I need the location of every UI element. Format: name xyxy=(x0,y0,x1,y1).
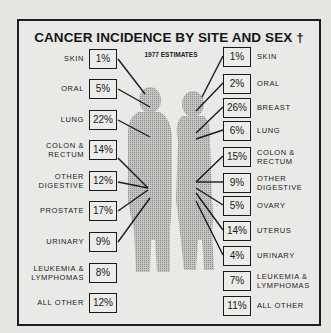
female-pct-colon: 15% xyxy=(223,147,251,167)
female-label-other-digestive: OTHER DIGESTIVE xyxy=(257,175,327,192)
male-label-lung: LUNG xyxy=(4,116,84,125)
male-label-skin: SKIN xyxy=(4,55,84,64)
female-label-leukemia: LEUKEMIA & LYMPHOMAS xyxy=(257,273,327,290)
female-label-other-digestive-line2: DIGESTIVE xyxy=(257,183,302,192)
female-pct-skin: 1% xyxy=(223,47,251,67)
male-label-prostate: PROSTATE xyxy=(4,207,84,216)
female-label-all-other: ALL OTHER xyxy=(257,302,327,311)
male-pct-other-digestive: 12% xyxy=(89,171,117,191)
male-pct-colon: 14% xyxy=(89,140,117,160)
female-label-skin: SKIN xyxy=(257,53,327,62)
female-pct-oral: 2% xyxy=(223,74,251,94)
male-label-leukemia-line2: LYMPHOMAS xyxy=(31,273,84,282)
female-pct-lung: 6% xyxy=(223,121,251,141)
male-pct-leukemia: 8% xyxy=(89,263,117,283)
female-pct-ovary: 5% xyxy=(223,196,251,216)
diagram-title: CANCER INCIDENCE BY SITE AND SEX † xyxy=(19,30,319,45)
male-label-oral: ORAL xyxy=(4,85,84,94)
female-pct-uterus: 14% xyxy=(223,221,251,241)
female-label-lung: LUNG xyxy=(257,127,327,136)
male-label-leukemia: LEUKEMIA & LYMPHOMAS xyxy=(4,265,84,282)
female-label-oral: ORAL xyxy=(257,80,327,89)
diagram-subtitle: 1977 ESTIMATES xyxy=(131,51,211,58)
male-label-colon: COLON & RECTUM xyxy=(4,142,84,159)
male-label-other-digestive-line2: DIGESTIVE xyxy=(39,181,84,190)
female-pct-all-other: 11% xyxy=(223,296,251,316)
female-label-ovary: OVARY xyxy=(257,202,327,211)
male-pct-lung: 22% xyxy=(89,110,117,130)
female-pct-urinary: 4% xyxy=(223,246,251,266)
female-label-breast: BREAST xyxy=(257,104,327,113)
female-label-colon: COLON & RECTUM xyxy=(257,149,327,166)
female-pct-other-digestive: 9% xyxy=(223,173,251,193)
male-label-all-other: ALL OTHER xyxy=(4,299,84,308)
male-pct-prostate: 17% xyxy=(89,201,117,221)
female-label-urinary: URINARY xyxy=(257,252,327,261)
female-pct-breast: 26% xyxy=(223,98,251,118)
male-label-colon-line2: RECTUM xyxy=(48,150,84,159)
female-label-colon-line2: RECTUM xyxy=(257,157,293,166)
male-pct-oral: 5% xyxy=(89,79,117,99)
male-label-urinary: URINARY xyxy=(4,238,84,247)
male-pct-urinary: 9% xyxy=(89,232,117,252)
female-label-leukemia-line2: LYMPHOMAS xyxy=(257,281,310,290)
female-pct-leukemia: 7% xyxy=(223,271,251,291)
male-pct-all-other: 12% xyxy=(89,293,117,313)
male-pct-skin: 1% xyxy=(89,49,117,69)
male-label-other-digestive: OTHER DIGESTIVE xyxy=(4,173,84,190)
female-label-uterus: UTERUS xyxy=(257,227,327,236)
